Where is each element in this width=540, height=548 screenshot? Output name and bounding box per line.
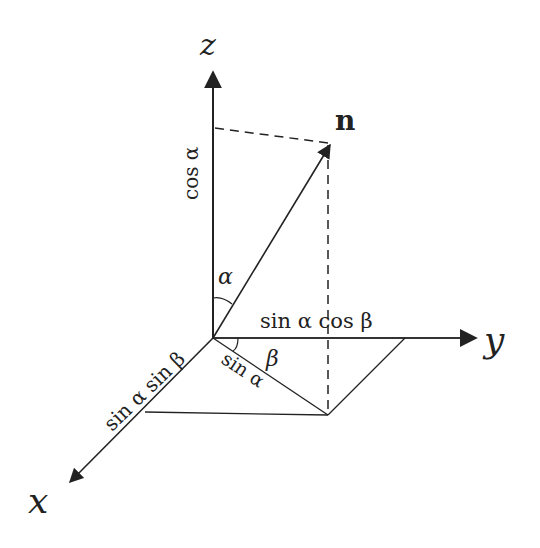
n-vector-label: n bbox=[335, 104, 355, 137]
alpha-arc bbox=[213, 298, 232, 304]
y-axis-label: y bbox=[482, 319, 505, 360]
y-parallel-line bbox=[145, 412, 328, 415]
diagram-canvas: z y x n α β cos α sin α cos β sin α sin … bbox=[0, 0, 540, 548]
sin-alpha-label: sin α bbox=[218, 347, 269, 392]
sin-alpha-cos-beta-label: sin α cos β bbox=[260, 309, 373, 333]
cos-alpha-label: cos α bbox=[179, 147, 203, 200]
beta-label: β bbox=[265, 346, 279, 371]
sin-alpha-sin-beta-label: sin α sin β bbox=[99, 347, 190, 436]
x-axis-label: x bbox=[28, 480, 48, 521]
alpha-label: α bbox=[218, 264, 233, 289]
unit-normal-vector-diagram: z y x n α β cos α sin α cos β sin α sin … bbox=[0, 0, 540, 548]
z-axis-label: z bbox=[199, 27, 216, 62]
dashed-z-projection bbox=[215, 128, 328, 143]
x-parallel-line bbox=[328, 338, 405, 415]
